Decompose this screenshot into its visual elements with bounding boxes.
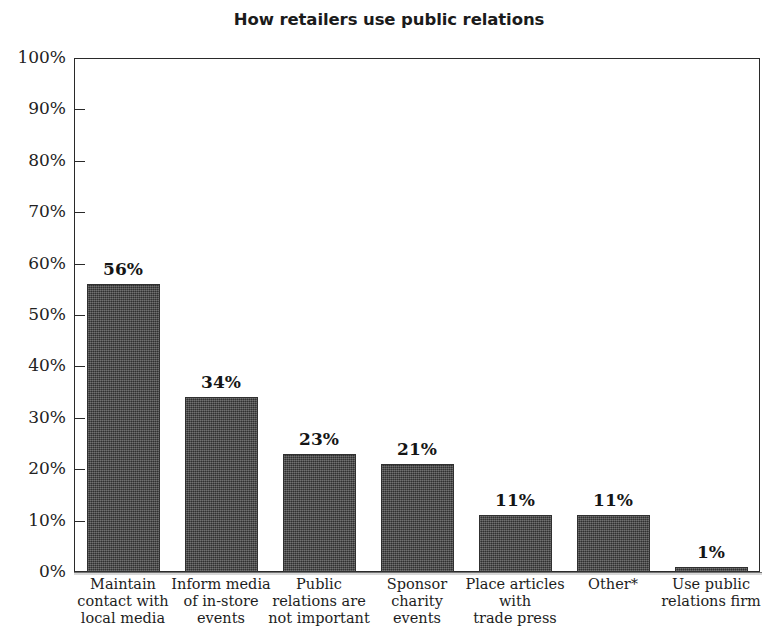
x-axis-category-line: of in-store <box>166 593 276 610</box>
bar-value-label: 21% <box>367 439 467 459</box>
y-axis-tick-label: 10% <box>0 510 66 530</box>
y-axis-tick-mark <box>74 161 85 162</box>
bar <box>185 397 258 572</box>
bar-value-label: 1% <box>661 542 761 562</box>
bar-value-label: 34% <box>171 372 271 392</box>
y-axis-tick-mark <box>74 469 85 470</box>
page-title: How retailers use public relations <box>0 10 778 29</box>
y-axis-tick-mark <box>74 315 85 316</box>
y-axis-tick-labels: 0%10%20%30%40%50%60%70%80%90%100% <box>0 0 70 641</box>
x-axis-baseline <box>74 572 762 575</box>
y-axis-tick-mark <box>74 212 85 213</box>
x-axis-category-line: with <box>460 593 570 610</box>
x-axis-category-line: events <box>362 610 472 627</box>
x-axis-category-label: Publicrelations arenot important <box>264 576 374 627</box>
y-axis-tick-label: 30% <box>0 407 66 427</box>
x-axis-category-line: relations firm <box>656 593 766 610</box>
y-axis-tick-label: 80% <box>0 150 66 170</box>
x-axis-category-line: charity <box>362 593 472 610</box>
y-axis-tick-label: 40% <box>0 355 66 375</box>
y-axis-tick-label: 60% <box>0 253 66 273</box>
x-axis-category-line: Inform media <box>166 576 276 593</box>
x-axis-category-line: not important <box>264 610 374 627</box>
plot-area: 56%34%23%21%11%11%1% <box>74 58 760 572</box>
y-axis-tick-label: 100% <box>0 47 66 67</box>
x-axis-category-line: Maintain <box>68 576 178 593</box>
x-axis-category-line: Use public <box>656 576 766 593</box>
y-axis-tick-label: 20% <box>0 458 66 478</box>
x-axis-category-label: Sponsorcharityevents <box>362 576 472 627</box>
x-axis-category-line: Other* <box>558 576 668 593</box>
x-axis-category-line: Place articles <box>460 576 570 593</box>
x-axis-category-line: Sponsor <box>362 576 472 593</box>
y-axis-tick-mark <box>74 521 85 522</box>
x-axis-category-labels: Maintaincontact withlocal mediaInform me… <box>74 576 760 641</box>
bar-value-label: 11% <box>465 490 565 510</box>
x-axis-category-label: Other* <box>558 576 668 593</box>
bar-value-label: 11% <box>563 490 663 510</box>
y-axis-tick-mark <box>74 366 85 367</box>
y-axis-tick-mark <box>74 109 85 110</box>
y-axis-tick-label: 50% <box>0 304 66 324</box>
bar-value-label: 23% <box>269 429 369 449</box>
y-axis-tick-mark <box>74 418 85 419</box>
bar <box>87 284 160 572</box>
bar <box>479 515 552 572</box>
bar <box>577 515 650 572</box>
x-axis-category-line: local media <box>68 610 178 627</box>
bar-chart: How retailers use public relations 0%10%… <box>0 0 778 641</box>
bar <box>283 454 356 572</box>
x-axis-category-label: Maintaincontact withlocal media <box>68 576 178 627</box>
x-axis-category-label: Inform mediaof in-storeevents <box>166 576 276 627</box>
bar <box>381 464 454 572</box>
x-axis-category-line: trade press <box>460 610 570 627</box>
y-axis-tick-label: 70% <box>0 201 66 221</box>
x-axis-category-line: contact with <box>68 593 178 610</box>
x-axis-category-line: events <box>166 610 276 627</box>
y-axis-tick-label: 90% <box>0 98 66 118</box>
x-axis-category-line: relations are <box>264 593 374 610</box>
x-axis-category-label: Use publicrelations firm <box>656 576 766 610</box>
y-axis-tick-label: 0% <box>0 561 66 581</box>
bar-value-label: 56% <box>73 259 173 279</box>
x-axis-category-label: Place articleswithtrade press <box>460 576 570 627</box>
x-axis-category-line: Public <box>264 576 374 593</box>
